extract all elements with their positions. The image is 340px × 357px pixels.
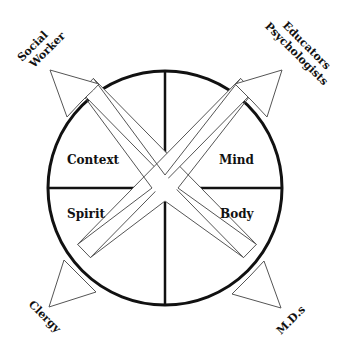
quadrant-label-spirit: Spirit	[67, 207, 105, 221]
quadrant-label-body: Body	[220, 207, 255, 221]
arrow-label-mds: M.D.s	[274, 303, 308, 337]
svg-text:M.D.s: M.D.s	[274, 303, 308, 337]
holistic-care-diagram: Context Mind Spirit Body Social Worker E…	[0, 0, 340, 357]
arrow-label-social-worker: Social Worker	[15, 20, 68, 73]
quadrant-label-context: Context	[67, 153, 120, 167]
quadrant-label-mind: Mind	[219, 153, 255, 167]
